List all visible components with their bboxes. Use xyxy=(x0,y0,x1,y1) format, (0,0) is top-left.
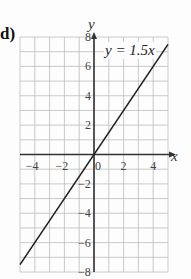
y-axis-label: y xyxy=(88,16,95,33)
x-axis-label: x xyxy=(171,148,178,165)
y-tick-label: 4 xyxy=(85,90,91,102)
y-tick-label: −4 xyxy=(78,207,91,219)
equation-label: y = 1.5x xyxy=(104,42,156,59)
y-tick-label: −8 xyxy=(78,266,91,278)
x-tick-label: −4 xyxy=(26,160,39,172)
y-tick-label: −2 xyxy=(78,178,91,190)
y-tick-label: 6 xyxy=(85,60,91,72)
y-tick-label: −6 xyxy=(78,237,91,249)
y-arrow-icon xyxy=(91,32,97,39)
y-tick-label: 2 xyxy=(85,119,91,131)
x-tick-label: 2 xyxy=(121,160,127,172)
x-tick-label: 0 xyxy=(95,160,101,172)
x-tick-label: 4 xyxy=(150,160,156,172)
x-tick-label: −2 xyxy=(55,160,68,172)
